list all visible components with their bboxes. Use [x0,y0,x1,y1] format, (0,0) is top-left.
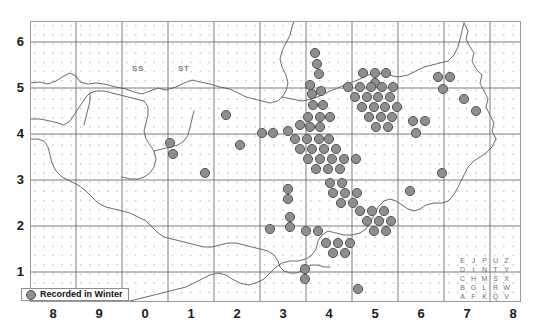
distribution-map-figure: 6 5 4 3 2 1 8 9 0 1 2 3 4 5 6 7 8 [0,0,539,332]
record-dot [355,206,364,215]
record-dot [325,178,334,187]
x-axis-tick-10: 8 [498,306,528,321]
record-dot [386,216,395,225]
x-axis-tick-5: 3 [268,306,298,321]
record-dot [315,154,324,163]
record-dot [295,144,304,153]
square-label-st: ST [178,64,189,73]
record-dot [343,82,352,91]
record-dot [221,110,230,119]
record-dot [337,178,346,187]
record-dot [408,116,417,125]
record-dot [339,154,348,163]
record-dot [312,59,321,68]
letter-key-cell-3-0: B [457,283,468,292]
record-dot [381,226,390,235]
legend-circle-icon [26,290,36,300]
record-dot [373,92,382,101]
record-dot [314,69,323,78]
record-dot [328,188,337,197]
record-dot [387,112,396,121]
record-dot [340,248,349,257]
record-dot [374,216,383,225]
record-dot [353,284,362,293]
record-dot [310,48,319,57]
record-dot [268,128,277,137]
record-dot [379,206,388,215]
y-axis-tick-5: 5 [4,80,24,95]
letter-key-cell-1-3: T [490,265,501,274]
record-dot [168,149,177,158]
y-axis-tick-4: 4 [4,126,24,141]
record-dot [285,212,294,221]
x-axis-tick-3: 1 [176,306,206,321]
letter-key-cell-3-3: R [490,283,501,292]
record-dots-layer [30,21,521,302]
record-dot [325,112,334,121]
record-dot [381,68,390,77]
record-dot [235,140,244,149]
record-dot [385,92,394,101]
record-dot [303,154,312,163]
record-dot [370,68,379,77]
record-dot [459,94,468,103]
record-dot [323,164,332,173]
x-axis-tick-8: 6 [406,306,436,321]
record-dot [348,198,357,207]
record-dot [367,206,376,215]
letter-key-cell-1-2: N [479,265,490,274]
record-dot [315,112,324,121]
record-dot [311,164,320,173]
record-dot [327,154,336,163]
letter-key-cell-4-2: K [479,292,490,301]
record-dot [438,84,447,93]
record-dot [437,168,446,177]
record-dot [315,122,324,131]
letter-key-cell-2-0: C [457,274,468,283]
record-dot [352,188,361,197]
record-dot [380,102,389,111]
record-dot [350,92,359,101]
y-axis-tick-3: 3 [4,172,24,187]
record-dot [433,72,442,81]
record-dot [316,86,325,95]
letter-key-cell-1-1: I [468,265,479,274]
record-dot [300,264,309,273]
record-dot [335,164,344,173]
record-dot [377,82,386,91]
record-dot [257,128,266,137]
square-label-ss: SS [132,64,144,73]
letter-key-cell-0-3: U [490,256,501,265]
record-dot [331,144,340,153]
record-dot [301,226,310,235]
record-dot [340,188,349,197]
letter-key-cell-4-1: F [468,292,479,301]
y-axis-tick-6: 6 [4,34,24,49]
record-dot [165,138,174,147]
record-dot [285,222,294,231]
record-dot [366,82,375,91]
record-dot [283,194,292,203]
letter-key-cell-3-4: W [501,283,512,292]
record-dot [313,226,322,235]
letter-key-cell-4-0: A [457,292,468,301]
legend-recorded-in-winter: Recorded in Winter [21,288,129,301]
x-axis-tick-1: 9 [84,306,114,321]
letter-key-cell-3-2: L [479,283,490,292]
record-dot [420,116,429,125]
record-dot [324,134,333,143]
record-dot [333,238,342,247]
y-axis-tick-1: 1 [4,264,24,279]
record-dot [358,68,367,77]
record-dot [411,128,420,137]
record-dot [318,100,327,109]
record-dot [405,186,414,195]
record-dot [371,122,380,131]
record-dot [445,72,454,81]
record-dot [362,216,371,225]
record-dot [328,248,337,257]
record-dot [369,102,378,111]
letter-key-cell-0-1: J [468,256,479,265]
letter-key-cell-2-4: X [501,274,512,283]
record-dot [321,238,330,247]
